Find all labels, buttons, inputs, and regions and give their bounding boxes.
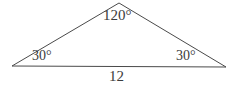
triangle-diagram: 120° 30° 30° 12: [0, 0, 234, 86]
left-angle-label: 30°: [32, 49, 52, 63]
apex-angle-label: 120°: [103, 8, 132, 23]
base-length-label: 12: [109, 69, 124, 84]
right-angle-label: 30°: [176, 49, 196, 63]
